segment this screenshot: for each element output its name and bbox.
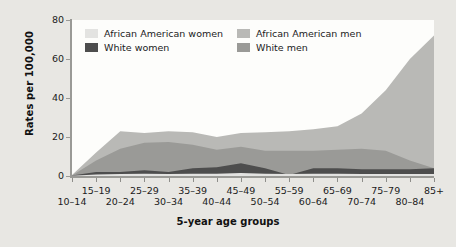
x-tick-mark (193, 178, 194, 182)
legend-label-white-women: White women (104, 42, 169, 53)
x-tick-label: 40–44 (197, 196, 237, 207)
legend-item-african-american-women: African American women (85, 28, 237, 39)
legend-swatch-white-women (85, 43, 98, 52)
legend-swatch-african-american-women (85, 29, 98, 38)
x-tick-label: 50–54 (245, 196, 285, 207)
legend-label-african-american-women: African American women (104, 28, 223, 39)
x-tick-mark (72, 178, 73, 182)
x-tick-label: 45–49 (221, 185, 261, 196)
y-tick-label: 80 (36, 15, 64, 25)
y-tick-label: 60 (36, 54, 64, 64)
x-tick-label: 15–19 (76, 185, 116, 196)
x-tick-mark (337, 178, 338, 182)
y-axis-title: Rates per 100,000 (24, 9, 35, 159)
x-tick-mark (313, 178, 314, 182)
x-tick-mark (410, 178, 411, 182)
x-tick-label: 75–79 (366, 185, 406, 196)
y-tick-label: 40 (36, 93, 64, 103)
x-tick-mark (217, 178, 218, 182)
legend-swatch-white-men (237, 43, 250, 52)
legend-item-african-american-men: African American men (237, 28, 375, 39)
x-tick-mark (120, 178, 121, 182)
x-tick-mark (144, 178, 145, 182)
x-tick-label: 20–24 (100, 196, 140, 207)
x-tick-mark (96, 178, 97, 182)
x-tick-label: 55–59 (269, 185, 309, 196)
x-tick-label: 10–14 (52, 196, 92, 207)
chart-legend: African American women African American … (85, 26, 375, 54)
legend-item-white-men: White men (237, 42, 375, 53)
chart-figure: Rates per 100,000 020406080 10–1415–1920… (0, 0, 456, 247)
legend-item-white-women: White women (85, 42, 237, 53)
legend-label-white-men: White men (256, 42, 308, 53)
y-tick-label: 20 (36, 132, 64, 142)
legend-swatch-african-american-men (237, 29, 250, 38)
x-tick-label: 70–74 (342, 196, 382, 207)
x-tick-mark (386, 178, 387, 182)
x-tick-label: 80–84 (390, 196, 430, 207)
x-tick-label: 25–29 (124, 185, 164, 196)
x-axis-title: 5-year age groups (0, 216, 456, 227)
x-tick-label: 65–69 (317, 185, 357, 196)
x-tick-label: 35–39 (173, 185, 213, 196)
x-tick-mark (169, 178, 170, 182)
x-tick-mark (265, 178, 266, 182)
y-tick-label: 0 (36, 171, 64, 181)
x-tick-mark (241, 178, 242, 182)
x-tick-mark (362, 178, 363, 182)
x-tick-label: 30–34 (149, 196, 189, 207)
x-axis-line (70, 176, 434, 178)
x-tick-label: 60–64 (293, 196, 333, 207)
x-tick-mark (434, 178, 435, 182)
x-tick-mark (289, 178, 290, 182)
legend-label-african-american-men: African American men (256, 28, 361, 39)
x-tick-label: 85+ (414, 185, 454, 196)
